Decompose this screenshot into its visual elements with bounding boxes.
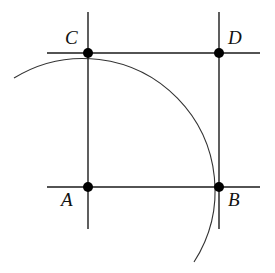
point-B <box>214 182 224 192</box>
point-D <box>214 48 224 58</box>
circle-arc <box>14 59 215 262</box>
square-construction-diagram: A B C D <box>0 0 275 273</box>
diagram-canvas: A B C D <box>0 0 275 273</box>
label-D: D <box>227 27 242 48</box>
label-B: B <box>228 189 240 210</box>
label-C: C <box>65 27 78 48</box>
label-A: A <box>59 189 73 210</box>
point-C <box>83 48 93 58</box>
point-A <box>83 182 93 192</box>
